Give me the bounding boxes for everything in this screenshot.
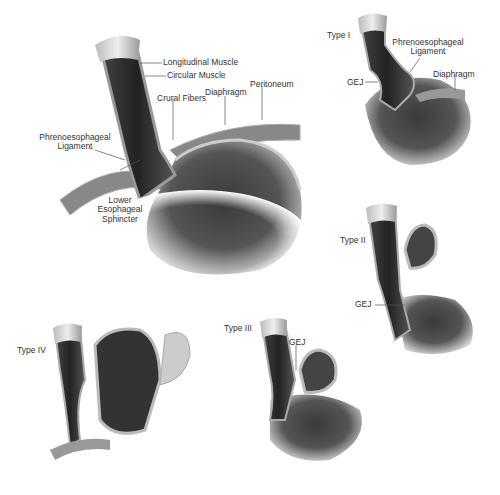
- type-4-panel: [50, 323, 190, 460]
- label-line: Ligament: [35, 142, 115, 151]
- label-line: Ligament: [388, 47, 468, 56]
- label-diaphragm: Diaphragm: [205, 88, 247, 97]
- type-1-label-diaphragm: Diaphragm: [433, 70, 475, 79]
- type-3-panel: [260, 318, 362, 461]
- type-1-label-gej: GEJ: [347, 78, 364, 87]
- label-peritoneum: Peritoneum: [250, 80, 293, 89]
- label-lower-esophageal-sphincter: Lower Esophageal Sphincter: [90, 196, 150, 224]
- label-crural-fibers: Crural Fibers: [157, 94, 206, 103]
- type-3-title: Type III: [224, 324, 252, 333]
- label-phrenoesophageal-ligament: Phrenoesophageal Ligament: [35, 133, 115, 152]
- type-2-panel: [366, 203, 473, 354]
- type-2-label-gej: GEJ: [355, 300, 372, 309]
- type-1-title: Type I: [327, 31, 350, 40]
- label-circular-muscle: Circular Muscle: [167, 71, 226, 80]
- type-2-title: Type II: [340, 236, 366, 245]
- label-line: Sphincter: [90, 215, 150, 224]
- type-3-label-gej: GEJ: [289, 338, 306, 347]
- type-4-title: Type IV: [17, 346, 46, 355]
- label-longitudinal-muscle: Longitudinal Muscle: [163, 58, 238, 67]
- type-1-label-ligament: Phrenoesophageal Ligament: [388, 38, 468, 57]
- illustration: [0, 0, 500, 495]
